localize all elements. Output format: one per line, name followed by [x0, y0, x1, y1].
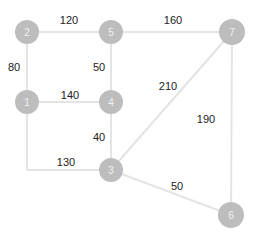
edge-weight-2-5: 120	[60, 14, 78, 26]
weighted-graph-diagram: 120 160 80 50 140 210 40 130 190 50 1 2 …	[0, 0, 256, 242]
edge-3-6	[111, 170, 231, 215]
edge-weight-4-3: 40	[93, 131, 105, 143]
edge-weight-1-3: 130	[57, 156, 75, 168]
node-1-label: 1	[24, 97, 30, 108]
node-7: 7	[219, 19, 245, 45]
node-3: 3	[99, 158, 123, 182]
node-5: 5	[99, 20, 123, 44]
node-4-label: 4	[108, 97, 114, 108]
edge-weight-5-7: 160	[164, 14, 182, 26]
node-5-label: 5	[108, 27, 114, 38]
node-7-label: 7	[229, 27, 235, 38]
edge-weight-3-6: 50	[171, 180, 183, 192]
node-2-label: 2	[24, 27, 30, 38]
edge-weight-7-6: 190	[197, 113, 215, 125]
edge-weight-1-4: 140	[61, 89, 79, 101]
edge-weight-2-1: 80	[8, 61, 20, 73]
edge-7-3	[111, 32, 232, 170]
edge-7-6	[231, 32, 232, 215]
node-4: 4	[99, 90, 123, 114]
node-1: 1	[15, 90, 39, 114]
node-2: 2	[15, 20, 39, 44]
node-3-label: 3	[108, 165, 114, 176]
edge-weight-7-3: 210	[159, 80, 177, 92]
edge-weight-5-4: 50	[93, 61, 105, 73]
node-6-label: 6	[228, 210, 234, 221]
node-6: 6	[218, 202, 244, 228]
